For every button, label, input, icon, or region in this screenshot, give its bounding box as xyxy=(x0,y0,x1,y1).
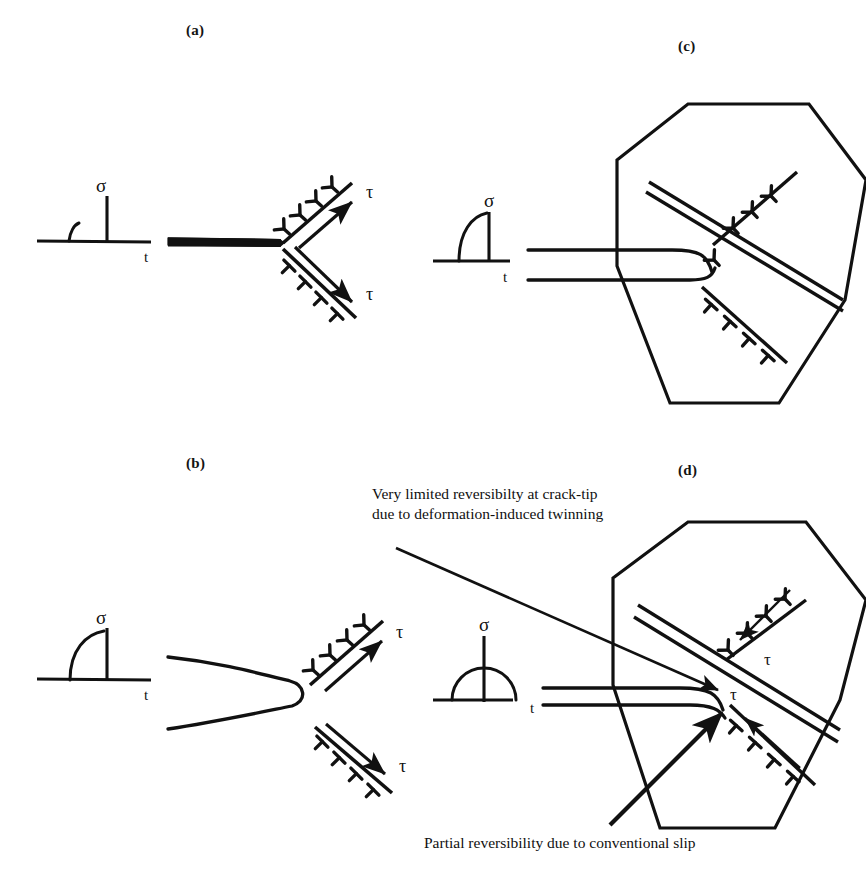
top-annotation-line2: due to deformation-induced twinning xyxy=(372,504,603,524)
panel-b-lower-slip-band: τ xyxy=(310,724,406,802)
panel-b-crack xyxy=(168,657,303,729)
panel-d-upper-tau-label: τ xyxy=(764,650,771,669)
panel-label-d: (d) xyxy=(678,462,697,479)
panel-a-lower-tau-label: τ xyxy=(366,284,373,304)
panel-b-group: σ t τ xyxy=(37,607,406,802)
panel-b-time-label: t xyxy=(144,687,149,703)
panel-d-time-label: t xyxy=(530,700,535,716)
panel-d-upper-slip-band: τ xyxy=(717,589,806,669)
panel-c-ramp-arc xyxy=(459,213,487,261)
panel-d-twin-band xyxy=(634,605,840,742)
panel-a-lower-dislocations xyxy=(277,260,343,326)
panel-c-loading-waveform xyxy=(433,212,510,262)
panel-a-ramp-arc xyxy=(69,223,79,241)
panel-a-time-label: t xyxy=(144,249,149,265)
panel-d-loading-waveform xyxy=(433,636,516,702)
panel-b-time-axis xyxy=(37,679,151,680)
panel-a-upper-dislocations xyxy=(273,177,342,240)
top-annotation-leader xyxy=(396,548,718,690)
panel-label-b: (b) xyxy=(186,455,205,472)
panel-c-sigma-label: σ xyxy=(484,190,494,211)
panel-a-sigma-label: σ xyxy=(96,175,106,196)
panel-a-group: σ t τ xyxy=(37,175,373,326)
bottom-annotation-line1: Partial reversibility due to conventiona… xyxy=(424,833,696,853)
panel-a-crack xyxy=(168,238,284,247)
figure-canvas: σ t τ xyxy=(0,0,866,871)
panel-b-loading-waveform xyxy=(37,628,151,681)
panel-b-upper-slip-band: τ xyxy=(302,615,403,691)
panel-d-sigma-label: σ xyxy=(479,614,489,635)
panel-c-upper-dislocations xyxy=(703,186,781,271)
panel-b-cycle-arc xyxy=(70,631,104,680)
panel-a-loading-waveform xyxy=(37,196,151,243)
top-annotation-line1: Very limited reversibilty at crack-tip xyxy=(372,484,603,504)
crack-tip-diagram-svg: σ t τ xyxy=(0,0,866,871)
panel-b-upper-dislocations xyxy=(302,615,374,681)
panel-c-grain-boundary xyxy=(617,104,866,403)
panel-c-lower-dislocations xyxy=(699,299,774,368)
panel-a-upper-tau-label: τ xyxy=(366,182,373,202)
panel-d-lower-dislocations xyxy=(724,720,799,789)
panel-c-group: σ t xyxy=(433,104,866,403)
panel-d-lower-tau-label: τ xyxy=(730,685,737,704)
panel-c-lower-slip-band xyxy=(699,287,787,368)
top-annotation: Very limited reversibilty at crack-tip d… xyxy=(372,484,603,524)
bottom-annotation: Partial reversibility due to conventiona… xyxy=(424,833,696,853)
panel-b-upper-tau-label: τ xyxy=(396,622,403,642)
panel-label-c: (c) xyxy=(678,38,696,55)
panel-c-time-label: t xyxy=(503,269,508,285)
panel-b-lower-dislocations xyxy=(310,736,379,802)
panel-d-group: σ t xyxy=(396,522,866,828)
panel-b-sigma-label: σ xyxy=(96,607,106,628)
panel-a-lower-slip-band: τ xyxy=(277,247,373,326)
panel-a-upper-slip-band: τ xyxy=(273,177,373,248)
panel-a-time-axis xyxy=(37,241,151,242)
panel-c-twin-band xyxy=(646,182,843,311)
panel-b-lower-tau-label: τ xyxy=(399,756,406,776)
panel-label-a: (a) xyxy=(186,22,204,39)
panel-d-crack xyxy=(543,688,725,718)
